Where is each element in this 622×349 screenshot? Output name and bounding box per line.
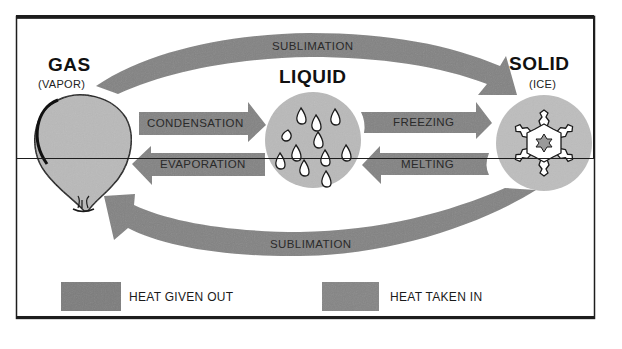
solid-title: SOLID <box>509 53 570 75</box>
gas-subtitle: (VAPOR) <box>38 78 85 90</box>
legend-swatch-heat-given-out <box>61 282 121 311</box>
melting-label: MELTING <box>401 158 454 170</box>
freezing-label: FREEZING <box>393 116 454 128</box>
sublimation-bottom-label: SUBLIMATION <box>270 238 352 250</box>
condensation-label: CONDENSATION <box>147 117 244 129</box>
sublimation-top-label: SUBLIMATION <box>272 40 354 52</box>
legend-label-heat-taken-in: HEAT TAKEN IN <box>390 290 482 304</box>
solid-subtitle: (ICE) <box>529 78 556 90</box>
liquid-title: LIQUID <box>279 66 346 88</box>
gas-title: GAS <box>48 54 91 76</box>
evaporation-label: EVAPORATION <box>160 158 246 170</box>
legend-label-heat-given-out: HEAT GIVEN OUT <box>129 290 233 304</box>
legend-swatch-heat-taken-in <box>322 282 379 311</box>
